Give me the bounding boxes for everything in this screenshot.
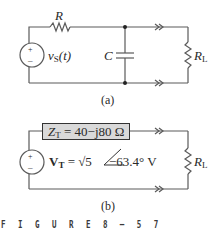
thevenin-voltage-angle: −63.4° V <box>109 155 157 168</box>
subfigure-label-b: (b) <box>101 200 115 212</box>
load-label-b: RL <box>194 155 207 170</box>
resistor-label: R <box>55 9 63 22</box>
minus-sign-b: – <box>28 163 33 172</box>
figure-caption: F I G U R E 8 – 5 7 <box>1 219 162 230</box>
node-dot-top <box>123 25 127 29</box>
capacitor-label: C <box>104 49 113 62</box>
thevenin-impedance-label: ZT = 40−j80 Ω <box>48 125 124 140</box>
resistor-r-icon <box>50 23 70 31</box>
resistor-rl-a-icon <box>185 42 191 68</box>
resistor-rl-b-icon <box>185 148 191 174</box>
subfigure-label-a: (a) <box>101 94 114 106</box>
node-dot-bottom <box>123 81 127 85</box>
thevenin-voltage-label: VT = √5 <box>49 155 92 170</box>
load-label-a: RL <box>194 49 207 64</box>
plus-sign-a: + <box>28 46 33 54</box>
minus-sign-a: – <box>28 56 33 65</box>
plus-sign-b: + <box>28 153 33 161</box>
source-label-a: vS(t) <box>48 49 71 64</box>
wire-a-left <box>29 27 50 43</box>
